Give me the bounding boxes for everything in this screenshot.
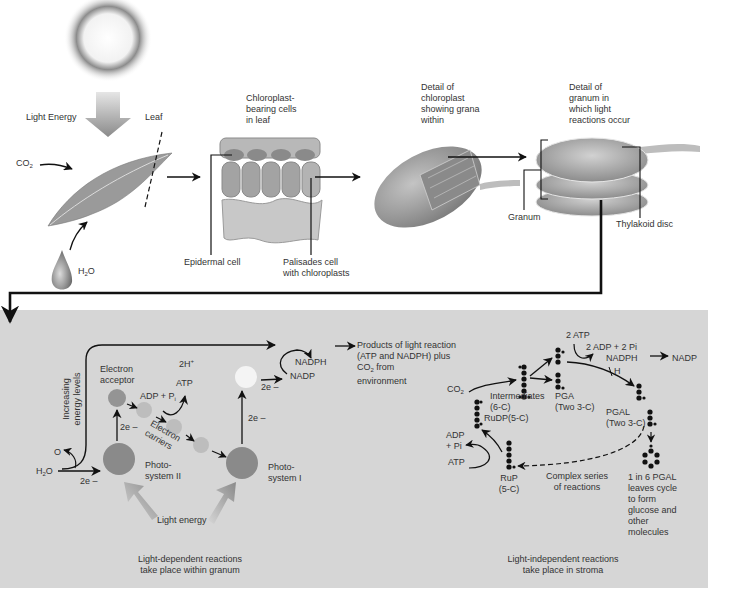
energy-axis-label: Increasing energy levels <box>61 369 83 429</box>
carbon-chain-pga-bottom <box>555 372 564 389</box>
detail-chloroplast-label: Detail of chloroplast showing grana with… <box>421 82 480 126</box>
nadph-label: NADPH <box>295 357 327 368</box>
thylakoid-disc-label: Thylakoid disc <box>616 219 673 230</box>
nadp-label: NADP <box>290 371 315 382</box>
carbon-chain-rudp <box>474 399 482 428</box>
photosystem-1-label: Photo- system I <box>268 462 302 484</box>
carbon-ring-glucose <box>642 444 659 468</box>
carbon-chain-pgal-bottom <box>647 409 656 426</box>
granum-label: Granum <box>508 212 541 223</box>
pgal-leaves-cycle-label: 1 in 6 PGAL leaves cycle to form glucose… <box>628 472 677 538</box>
cycle-atp-label: ATP <box>448 457 465 468</box>
leaf-cells-illustration <box>220 138 322 243</box>
carbon-chain-pgal-top <box>636 383 645 400</box>
palisades-cell-label: Palisades cell with chloroplasts <box>283 257 350 279</box>
h2o-label: H2O <box>78 266 95 280</box>
photosystem-2-label: Photo- system II <box>145 460 181 482</box>
products-label: Products of light reaction (ATP and NADP… <box>357 340 456 387</box>
cycle-nadp-label: NADP <box>672 353 697 364</box>
detail-granum-label: Detail of granum in which light reaction… <box>569 82 630 126</box>
two-e-label-water: 2e – <box>80 476 98 487</box>
electron-acceptor <box>108 389 126 407</box>
light-beam-ps1 <box>208 482 236 524</box>
epidermal-cell-label: Epidermal cell <box>184 257 241 268</box>
photosystem-1 <box>226 447 258 479</box>
light-independent-caption: Light-independent reactions take place i… <box>498 554 628 576</box>
light-beam-arrow <box>85 92 131 137</box>
photosystem-1-excited <box>235 366 257 388</box>
light-dependent-caption: Light-dependent reactions take place wit… <box>125 554 255 576</box>
two-adp-pi-label: 2 ADP + 2 Pi <box>586 342 637 353</box>
cycle-adp-pi-label: ADP + Pi <box>446 430 465 452</box>
two-atp-label: 2 ATP <box>566 330 590 341</box>
two-e-label-nadp: 2e – <box>261 382 279 393</box>
cycle-co2-label: CO2 <box>447 384 464 398</box>
water-label: H2O <box>36 466 53 480</box>
leaf-icon <box>48 153 172 226</box>
co2-label: CO2 <box>16 158 33 172</box>
pgal-label: PGAL (Two 3-C) <box>606 407 646 429</box>
rudp-label: RuDP(5-C) <box>484 413 529 424</box>
sun-icon <box>64 0 152 82</box>
two-e-label-acceptor: 2e – <box>120 422 138 433</box>
granum-illustration <box>480 138 700 216</box>
leaf-label: Leaf <box>145 112 163 123</box>
rup-label: RuP (5-C) <box>497 473 521 495</box>
carbon-chain-rup <box>506 440 515 469</box>
h-label: H <box>614 366 621 377</box>
two-e-label-ps1: 2e – <box>248 413 266 424</box>
light-energy-bottom-label: Light energy <box>157 515 207 526</box>
pga-label: PGA (Two 3-C) <box>555 391 595 413</box>
chloroplast-illustration <box>361 130 495 244</box>
oxygen-label: O <box>54 447 61 458</box>
water-drop-icon <box>52 250 72 290</box>
electron-carrier <box>193 437 209 453</box>
complex-series-label: Complex series of reactions <box>537 471 617 493</box>
cycle-nadph-label: NADPH <box>606 353 638 364</box>
adp-pi-label: ADP + Pi <box>140 391 176 405</box>
two-h-plus-label: 2H+ <box>179 356 194 370</box>
electron-acceptor-label: Electron acceptor <box>100 364 135 386</box>
light-energy-label: Light Energy <box>26 112 77 123</box>
atp-label: ATP <box>176 378 193 389</box>
light-beam-ps2 <box>124 482 158 520</box>
photosystem-2 <box>103 443 135 475</box>
chloroplast-cells-label: Chloroplast- bearing cells in leaf <box>246 93 297 126</box>
carbon-chain-pga-top <box>555 347 564 364</box>
intermediates-label: Intermediates (6-C) <box>490 391 545 413</box>
